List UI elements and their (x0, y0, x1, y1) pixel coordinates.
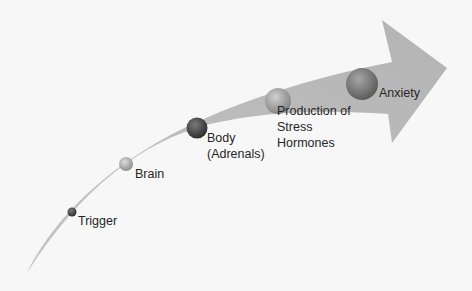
node-brain-icon (119, 157, 133, 171)
node-anxiety-icon (346, 68, 378, 100)
node-body-icon (187, 118, 208, 139)
step-label-body: Body (Adrenals) (207, 130, 265, 162)
step-label-brain: Brain (135, 166, 164, 182)
step-label-trigger: Trigger (78, 213, 117, 229)
step-label-anxiety: Anxiety (379, 85, 420, 101)
step-label-hormones: Production of Stress Hormones (277, 103, 351, 151)
node-trigger-icon (68, 208, 77, 217)
